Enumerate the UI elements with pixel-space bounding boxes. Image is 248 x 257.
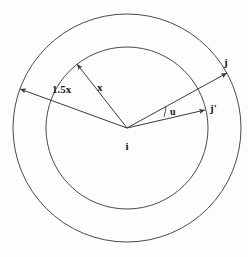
label-center-i: i xyxy=(125,140,128,152)
label-inner-radius: x xyxy=(97,81,103,93)
diagram-canvas: 1.5x x j j' u i xyxy=(0,0,248,257)
label-node-j: j xyxy=(223,56,228,68)
geometry-figure: 1.5x x j j' u i xyxy=(0,0,248,257)
vector-to-j-prime xyxy=(127,110,205,128)
label-angle-u: u xyxy=(170,106,176,117)
vector-to-j xyxy=(127,73,227,128)
label-node-j-prime: j' xyxy=(209,102,217,114)
label-outer-radius: 1.5x xyxy=(52,83,72,95)
radius-outer-vector xyxy=(20,89,127,128)
